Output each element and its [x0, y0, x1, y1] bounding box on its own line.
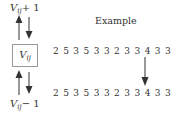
lower-arrow-pair: [0, 69, 40, 99]
change-down-arrow-icon: [139, 55, 151, 91]
var-subscript: ij: [26, 54, 30, 62]
v-ij-minus-one-label: Vij− 1: [10, 99, 40, 111]
var-operator: − 1: [22, 98, 40, 109]
up-arrow-icon: [16, 15, 23, 40]
upper-arrow-pair: [0, 14, 40, 44]
var-operator: + 1: [22, 2, 40, 13]
up-arrow-icon: [16, 70, 23, 95]
v-ij-label: Vij: [19, 50, 31, 62]
sequence-before: 2 5 3 5 3 3 2 3 3 4 3 3 4 2 7: [53, 47, 173, 56]
example-title: Example: [95, 16, 137, 26]
down-arrow-icon: [26, 72, 33, 94]
v-ij-box: Vij: [12, 44, 38, 67]
down-arrow-icon: [26, 17, 33, 39]
sequence-after: 2 5 3 5 3 3 2 3 3 4 3 3 3 2 7: [53, 89, 173, 98]
